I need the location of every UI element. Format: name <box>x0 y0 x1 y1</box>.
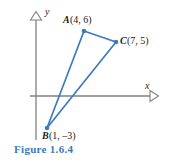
y-axis-arrowhead-icon <box>31 12 42 21</box>
point-label-b: B(1, –3) <box>42 130 76 141</box>
point-label-a: A(4, 6) <box>63 14 92 25</box>
point-label-c-coords: (7, 5) <box>127 35 149 46</box>
point-label-a-coords: (4, 6) <box>70 14 92 25</box>
point-label-b-coords: (1, –3) <box>49 130 76 141</box>
figure-caption: Figure 1.6.4 <box>14 143 73 155</box>
segment-c-b <box>47 42 116 128</box>
figure-container: A(4, 6) C(7, 5) B(1, –3) y x Figure 1.6.… <box>0 0 170 163</box>
point-label-a-name: A <box>63 14 70 25</box>
point-label-b-name: B <box>42 130 49 141</box>
segment-a-c <box>84 31 116 42</box>
x-axis-arrowhead-icon <box>150 91 159 102</box>
point-label-c-name: C <box>120 35 127 46</box>
vertex-point-a <box>82 29 87 34</box>
point-label-c: C(7, 5) <box>120 35 149 46</box>
x-axis-label: x <box>145 80 149 91</box>
vertex-point-c <box>114 40 119 45</box>
segment-b-a <box>47 31 84 128</box>
y-axis-label: y <box>45 6 49 17</box>
